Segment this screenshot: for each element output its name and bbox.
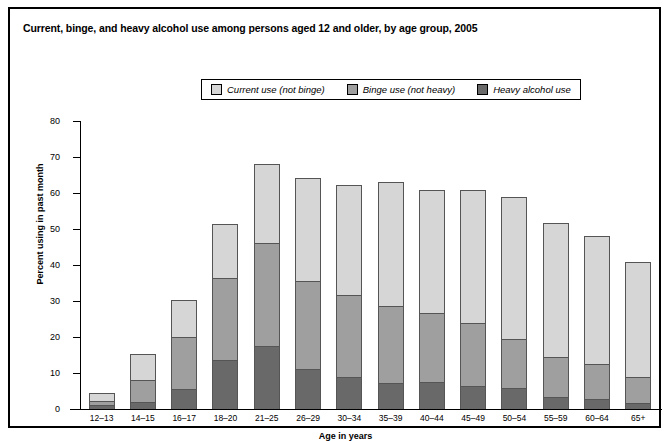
bar-segment-current-use [585,237,609,364]
legend-swatch-icon-binge-use [347,84,358,95]
x-axis-tick-label: 21–25 [246,413,287,423]
bar-segment-current-use [255,165,279,243]
bar-segment-heavy-use [255,346,279,409]
bar-column[interactable] [122,121,163,409]
bar-segment-current-use [172,301,196,338]
bar-segment-current-use [502,198,526,339]
x-axis-line [70,409,662,410]
stacked-bar[interactable] [584,236,610,409]
stacked-bar[interactable] [130,354,156,409]
bar-segment-binge-use [585,364,609,399]
chart-title: Current, binge, and heavy alcohol use am… [23,22,477,34]
bar-column[interactable] [205,121,246,409]
stacked-bar[interactable] [378,182,404,409]
x-axis-tick-label: 35–39 [370,413,411,423]
bar-column[interactable] [287,121,328,409]
x-axis-title: Age in years [10,431,671,441]
stacked-bar[interactable] [295,178,321,409]
bar-segment-heavy-use [379,383,403,409]
x-axis-tick-label: 14–15 [122,413,163,423]
x-axis-tick-label: 12–13 [81,413,122,423]
stacked-bar[interactable] [419,190,445,409]
stacked-bar[interactable] [501,197,527,409]
chart-legend: Current use (not binge) Binge use (not h… [201,79,581,100]
bar-segment-binge-use [502,339,526,388]
bar-segment-binge-use [296,281,320,369]
x-axis-tick-label: 45–49 [453,413,494,423]
bar-segment-binge-use [461,323,485,386]
y-axis-tick [73,229,80,230]
bar-segment-current-use [544,224,568,356]
bar-segment-current-use [379,183,403,306]
x-axis-tick-label: 65+ [618,413,659,423]
legend-swatch-icon-current-use [211,84,222,95]
stacked-bar[interactable] [460,190,486,409]
bar-segment-heavy-use [544,397,568,409]
bar-segment-current-use [337,186,361,295]
stacked-bar[interactable] [89,393,115,409]
x-axis-tick-label: 16–17 [164,413,205,423]
legend-label-binge-use: Binge use (not heavy) [363,84,455,95]
stacked-bar[interactable] [171,300,197,409]
legend-swatch-icon-heavy-use [477,84,488,95]
legend-label-current-use: Current use (not binge) [227,84,325,95]
bar-segment-current-use [296,179,320,282]
y-axis-title: Percent using in past month [35,114,45,334]
y-axis-tick [73,373,80,374]
bar-column[interactable] [246,121,287,409]
bar-segment-binge-use [213,278,237,360]
x-axis-tick-label: 50–54 [494,413,535,423]
x-axis-tick-label: 18–20 [205,413,246,423]
bar-segment-heavy-use [585,399,609,409]
legend-label-heavy-use: Heavy alcohol use [493,84,571,95]
stacked-bar[interactable] [212,224,238,409]
y-axis-tick [73,157,80,158]
bar-segment-current-use [131,355,155,381]
stacked-bar[interactable] [336,185,362,409]
bar-segment-binge-use [172,337,196,388]
y-axis-tick [73,193,80,194]
stacked-bar[interactable] [254,164,280,409]
legend-item-current-use: Current use (not binge) [211,84,325,95]
bar-column[interactable] [618,121,659,409]
bar-segment-binge-use [379,306,403,383]
y-axis-tick [73,265,80,266]
legend-item-heavy-use: Heavy alcohol use [477,84,571,95]
bar-column[interactable] [81,121,122,409]
bar-segment-current-use [213,225,237,278]
bar-column[interactable] [576,121,617,409]
bar-segment-current-use [90,394,114,401]
y-axis-tick-label: 10 [34,368,60,378]
bar-segment-binge-use [420,313,444,382]
bar-column[interactable] [370,121,411,409]
bar-segment-heavy-use [502,388,526,409]
x-axis-tick-label: 30–34 [329,413,370,423]
x-axis-tick-label: 60–64 [576,413,617,423]
bar-column[interactable] [411,121,452,409]
bar-segment-current-use [626,263,650,377]
bar-column[interactable] [453,121,494,409]
bar-segment-heavy-use [337,377,361,409]
bar-segment-heavy-use [213,360,237,409]
bar-segment-heavy-use [461,386,485,409]
bar-segment-heavy-use [131,402,155,409]
bar-segment-binge-use [337,295,361,376]
chart-frame: Current, binge, and heavy alcohol use am… [8,7,661,428]
x-axis-tick-label: 55–59 [535,413,576,423]
y-axis-tick-label: 0 [34,404,60,414]
bars-container [81,121,659,409]
bar-segment-heavy-use [420,382,444,409]
bar-column[interactable] [329,121,370,409]
bar-segment-current-use [420,191,444,312]
x-axis-tick-label: 40–44 [411,413,452,423]
stacked-bar[interactable] [625,262,651,409]
bar-column[interactable] [164,121,205,409]
y-axis-tick [73,121,80,122]
bar-segment-current-use [461,191,485,323]
y-axis-tick [73,409,80,410]
bar-column[interactable] [535,121,576,409]
bar-column[interactable] [494,121,535,409]
x-axis-tick-label: 26–29 [287,413,328,423]
stacked-bar[interactable] [543,223,569,409]
y-axis-tick [73,337,80,338]
